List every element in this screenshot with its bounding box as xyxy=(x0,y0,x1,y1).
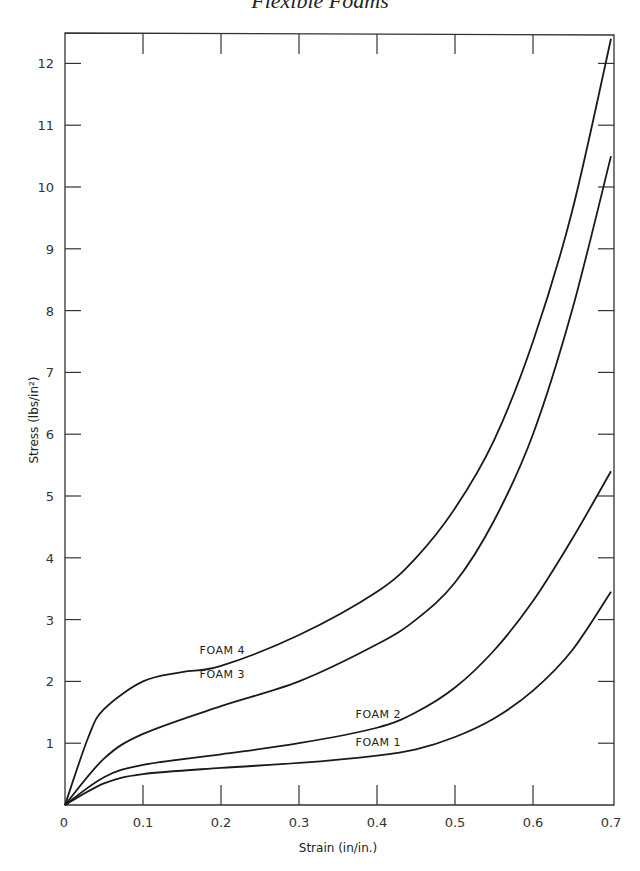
y-tick-label: 4 xyxy=(46,551,54,566)
y-axis-title: Stress (lbs/in²) xyxy=(27,376,41,463)
x-tick-label: 0.4 xyxy=(367,815,388,830)
x-axis-title: Strain (in/in.) xyxy=(299,841,377,855)
y-tick-label: 2 xyxy=(46,674,54,689)
label-foam-2: FOAM 2 xyxy=(356,708,401,721)
x-tick-label: 0.3 xyxy=(289,815,310,830)
curve-foam-4 xyxy=(65,39,611,805)
labels: FOAM 4FOAM 3FOAM 2FOAM 1 xyxy=(200,644,401,750)
label-foam-3: FOAM 3 xyxy=(200,668,245,681)
y-tick-label: 6 xyxy=(46,427,54,442)
stress-strain-chart: 00.10.20.30.40.50.60.7123456789101112 FO… xyxy=(0,0,640,871)
x-tick-label: 0 xyxy=(60,815,68,830)
y-tick-label: 5 xyxy=(46,489,54,504)
x-tick-label: 0.6 xyxy=(523,815,544,830)
y-tick-label: 12 xyxy=(37,56,54,71)
y-tick-label: 8 xyxy=(46,304,54,319)
curve-foam-2 xyxy=(65,471,611,805)
plot-border xyxy=(65,33,614,805)
x-tick-label: 0.5 xyxy=(445,815,466,830)
y-tick-label: 7 xyxy=(46,365,54,380)
curve-foam-1 xyxy=(65,592,611,805)
plot-frame xyxy=(65,33,614,805)
x-tick-label: 0.2 xyxy=(211,815,232,830)
x-tick-label: 0.7 xyxy=(601,815,622,830)
label-foam-1: FOAM 1 xyxy=(356,736,401,749)
y-tick-label: 1 xyxy=(46,736,54,751)
x-tick-label: 0.1 xyxy=(133,815,154,830)
y-tick-label: 11 xyxy=(37,118,54,133)
curves xyxy=(65,39,611,805)
y-tick-label: 9 xyxy=(46,242,54,257)
y-tick-label: 3 xyxy=(46,613,54,628)
curve-foam-3 xyxy=(65,156,611,805)
y-tick-label: 10 xyxy=(37,180,54,195)
label-foam-4: FOAM 4 xyxy=(200,644,245,657)
